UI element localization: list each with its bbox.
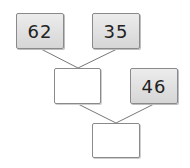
number-box-46: 46 [130,68,178,104]
answer-box-sum2[interactable] [92,123,140,158]
number-value: 46 [142,76,167,97]
edge-35-to-sum1 [78,49,117,68]
edge-sum1-to-sum2 [78,104,116,123]
number-value: 62 [28,21,53,42]
number-value: 35 [104,21,129,42]
answer-box-sum1[interactable] [54,68,101,104]
number-box-35: 35 [92,13,140,49]
number-box-62: 62 [16,13,64,49]
edge-62-to-sum1 [41,49,78,68]
edge-46-to-sum2 [116,104,154,123]
